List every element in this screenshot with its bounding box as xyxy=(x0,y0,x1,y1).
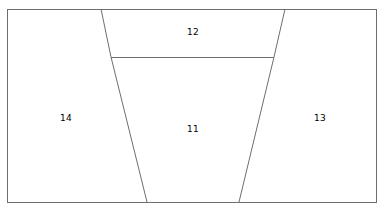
left-diagonal-divider xyxy=(101,9,147,202)
region-label-14: 14 xyxy=(60,114,72,123)
region-label-12: 12 xyxy=(187,28,199,37)
region-label-13: 13 xyxy=(314,114,326,123)
diagram-canvas: 12 14 11 13 xyxy=(0,0,384,209)
outer-rectangle xyxy=(7,9,376,202)
region-label-11: 11 xyxy=(187,125,199,134)
right-diagonal-divider xyxy=(239,9,285,202)
